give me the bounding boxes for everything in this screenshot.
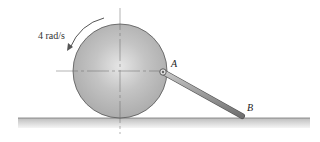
angular-velocity-label: 4 rad/s xyxy=(38,30,65,41)
ground-surface xyxy=(18,118,310,128)
rod-ab-fill xyxy=(163,72,242,116)
diagram-canvas xyxy=(0,0,320,142)
point-b-label: B xyxy=(247,102,253,113)
point-a-label: A xyxy=(171,58,177,69)
pin-a-center xyxy=(162,71,164,73)
